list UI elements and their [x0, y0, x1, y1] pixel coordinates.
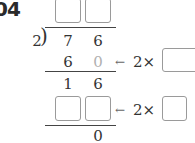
final-remainder: 0 [91, 128, 105, 143]
step1-remainder-tens: 1 [61, 76, 75, 92]
arrow-left-icon: ← [115, 103, 125, 117]
multiplier-label: 2× [133, 53, 155, 71]
step1-remainder-ones: 6 [91, 76, 105, 92]
quotient-ones-box[interactable] [85, 0, 111, 23]
question-number: 04 [0, 0, 20, 21]
step2-product-ones-box[interactable] [85, 96, 111, 121]
step1-product-ones: 0 [91, 54, 105, 70]
multiplier-answer-box-2[interactable] [162, 96, 187, 121]
subtraction-line-2 [45, 125, 116, 126]
dividend-tens: 7 [61, 33, 75, 49]
division-bracket: ) [40, 26, 48, 46]
multiplier-label: 2× [133, 101, 155, 119]
subtraction-line-1 [45, 71, 116, 72]
arrow-left-icon: ← [115, 55, 125, 69]
division-bar [45, 27, 116, 28]
multiplier-answer-box-1[interactable] [162, 48, 195, 72]
dividend-ones: 6 [91, 33, 105, 49]
step1-product-tens: 6 [61, 54, 75, 70]
step2-product-tens-box[interactable] [55, 96, 81, 121]
quotient-tens-box[interactable] [55, 0, 81, 23]
